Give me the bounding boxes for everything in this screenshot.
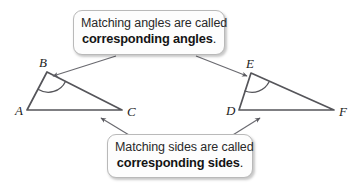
arrow-to-angle-e xyxy=(196,56,247,76)
triangle-def-outline xyxy=(239,73,334,110)
vertex-label-e: E xyxy=(245,56,254,71)
callout-angles-period: . xyxy=(213,31,216,46)
callout-sides-line1: Matching sides are called xyxy=(115,139,245,155)
callout-corresponding-sides: Matching sides are called corresponding … xyxy=(107,134,253,178)
vertex-label-f: F xyxy=(338,104,348,119)
callout-angles-line2: corresponding angles. xyxy=(81,31,217,47)
triangle-abc xyxy=(27,72,122,110)
callout-sides-term: corresponding sides xyxy=(117,155,240,170)
angle-arc-e xyxy=(245,82,269,92)
figure-canvas: A B C D E F Matching angles are called c… xyxy=(0,0,351,187)
vertex-label-a: A xyxy=(14,103,23,118)
vertex-label-d: D xyxy=(225,103,236,118)
vertex-label-b: B xyxy=(39,55,47,70)
angle-arc-b xyxy=(39,82,66,93)
callout-sides-period: . xyxy=(240,155,243,170)
callout-sides-line2: corresponding sides. xyxy=(115,155,245,171)
vertex-label-c: C xyxy=(127,104,136,119)
callout-angles-line1: Matching angles are called xyxy=(81,15,217,31)
callout-corresponding-angles: Matching angles are called corresponding… xyxy=(73,10,225,55)
triangle-def xyxy=(239,73,334,110)
callout-angles-term: corresponding angles xyxy=(82,31,213,46)
arrow-to-angle-b xyxy=(53,56,116,76)
